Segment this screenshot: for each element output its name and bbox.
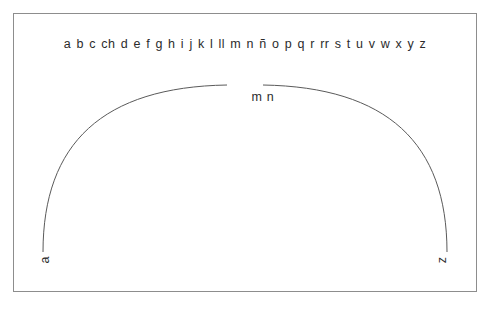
arc-right-segment: [263, 85, 447, 252]
figure-canvas: abcchdefghijklllmnñopqrrrstuvwxyz m n a …: [0, 0, 496, 310]
sonority-arc-svg: [13, 13, 477, 292]
arc-end-label: z: [436, 253, 450, 267]
arc-start-label: a: [39, 253, 53, 267]
arc-apex-label: m n: [240, 89, 286, 106]
arc-area: m n: [13, 13, 477, 292]
arc-left-segment: [43, 85, 227, 252]
